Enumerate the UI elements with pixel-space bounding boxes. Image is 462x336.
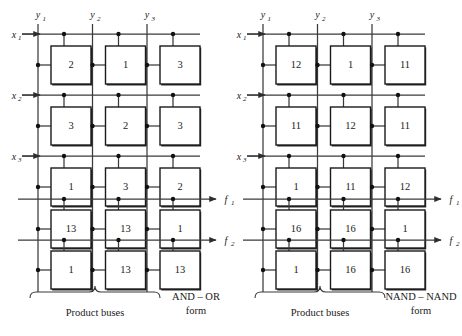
output-label-subscript-f1: 1 (231, 199, 235, 207)
cell-value: 16 (345, 223, 356, 234)
output-label-subscript-f2: 2 (231, 240, 235, 248)
form-label-line2: form (411, 305, 431, 316)
cell-value: 11 (291, 120, 301, 131)
junction-dot-left (261, 124, 265, 128)
junction-dot-left (315, 63, 319, 67)
junction-dot-left (261, 63, 265, 67)
junction-dot-left (145, 124, 149, 128)
cell-value: 13 (120, 223, 131, 234)
cell-value: 16 (345, 264, 356, 275)
junction-dot-top (116, 93, 120, 97)
junction-dot-top (116, 197, 120, 201)
cell-x1-col2[interactable]: 1 (90, 32, 146, 86)
junction-dot-left (370, 227, 374, 231)
junction-dot-left (90, 268, 94, 272)
cell-value: 1 (402, 223, 407, 234)
junction-dot-left (145, 227, 149, 231)
cell-value: 1 (68, 181, 73, 192)
junction-dot-top (287, 32, 291, 36)
cell-value: 11 (400, 59, 410, 70)
junction-dot-top (341, 32, 345, 36)
output-label-f2: f (225, 235, 229, 246)
pla-figure: y1y2y3x1213x2323x3132f113131f211313Produ… (0, 0, 462, 336)
cell-x2-col3[interactable]: 3 (145, 93, 201, 147)
input-label-subscript-x2: 2 (18, 95, 22, 103)
output-label-f1: f (225, 194, 229, 205)
cell-value: 11 (400, 120, 410, 131)
cell-value: 3 (177, 120, 182, 131)
column-label-subscript-2: 2 (97, 15, 101, 23)
junction-dot-top (287, 154, 291, 158)
cell-value: 16 (291, 223, 302, 234)
junction-dot-top (171, 154, 175, 158)
cell-x2-col1[interactable]: 11 (261, 93, 317, 147)
cell-x1-col3[interactable]: 11 (370, 32, 426, 86)
cell-value: 16 (400, 264, 411, 275)
column-label-subscript-3: 3 (376, 15, 381, 23)
junction-dot-left (36, 227, 40, 231)
junction-dot-left (261, 268, 265, 272)
form-label-line1: AND – OR (172, 291, 220, 302)
cell-x1-col2[interactable]: 1 (315, 32, 371, 86)
cell-x2-col3[interactable]: 11 (370, 93, 426, 147)
junction-dot-left (261, 185, 265, 189)
junction-dot-left (36, 268, 40, 272)
junction-dot-left (315, 268, 319, 272)
junction-dot-left (261, 227, 265, 231)
junction-dot-top (171, 238, 175, 242)
cell-value: 2 (68, 59, 73, 70)
junction-dot-left (315, 124, 319, 128)
junction-dot-left (370, 63, 374, 67)
junction-dot-top (116, 32, 120, 36)
cell-value: 1 (177, 223, 182, 234)
junction-dot-left (90, 63, 94, 67)
junction-dot-top (396, 154, 400, 158)
junction-dot-top (396, 238, 400, 242)
cell-value: 12 (400, 181, 411, 192)
junction-dot-left (36, 185, 40, 189)
cell-value: 11 (345, 181, 355, 192)
cell-x1-col1[interactable]: 2 (36, 32, 92, 86)
junction-dot-top (341, 154, 345, 158)
column-label-subscript-3: 3 (151, 15, 156, 23)
column-label-subscript-2: 2 (322, 15, 326, 23)
junction-dot-top (287, 93, 291, 97)
junction-dot-top (62, 32, 66, 36)
junction-dot-top (116, 238, 120, 242)
cell-value: 13 (120, 264, 131, 275)
cell-x1-col3[interactable]: 3 (145, 32, 201, 86)
cell-x2-col2[interactable]: 2 (90, 93, 146, 147)
cell-x2-col2[interactable]: 12 (315, 93, 371, 147)
output-label-subscript-f2: 2 (456, 240, 460, 248)
junction-dot-left (145, 63, 149, 67)
pla-diagram-canvas: y1y2y3x1213x2323x3132f113131f211313Produ… (0, 0, 462, 336)
junction-dot-left (145, 268, 149, 272)
junction-dot-top (62, 197, 66, 201)
junction-dot-top (341, 197, 345, 201)
input-label-x3: x (236, 151, 242, 162)
junction-dot-top (287, 238, 291, 242)
output-label-subscript-f1: 1 (456, 199, 460, 207)
cell-value: 12 (345, 120, 356, 131)
cell-value: 2 (177, 181, 182, 192)
junction-dot-top (62, 154, 66, 158)
junction-dot-top (341, 93, 345, 97)
cell-value: 2 (123, 120, 128, 131)
junction-dot-top (171, 197, 175, 201)
cell-x1-col1[interactable]: 12 (261, 32, 317, 86)
junction-dot-left (145, 185, 149, 189)
input-label-x3: x (11, 151, 17, 162)
junction-dot-left (36, 124, 40, 128)
right-panel: y1y2y3x112111x2111211x311112f116161f2116… (236, 9, 460, 318)
column-label-y2: y (314, 9, 320, 20)
left-panel: y1y2y3x1213x2323x3132f113131f211313Produ… (11, 9, 235, 318)
input-label-x2: x (11, 90, 17, 101)
form-label-line2: form (186, 305, 206, 316)
input-label-subscript-x3: 3 (242, 156, 247, 164)
input-label-subscript-x1: 1 (243, 34, 247, 42)
form-label-line1: NAND – NAND (385, 291, 457, 302)
cell-value: 1 (293, 181, 298, 192)
input-label-x2: x (236, 90, 242, 101)
cell-value: 13 (66, 223, 77, 234)
cell-x2-col1[interactable]: 3 (36, 93, 92, 147)
